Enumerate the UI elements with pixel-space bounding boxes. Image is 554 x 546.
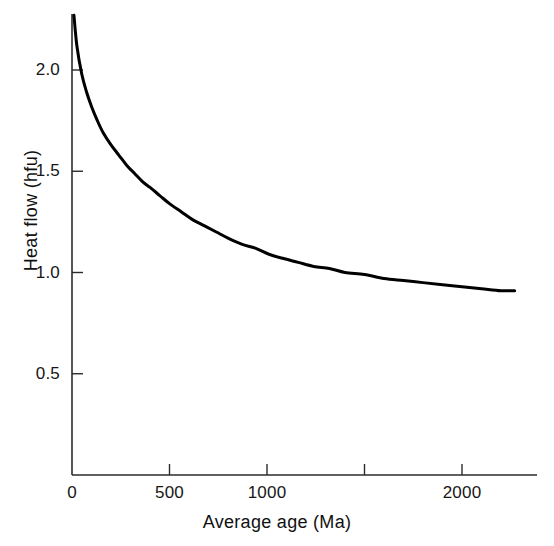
x-tick-marks (170, 464, 463, 475)
heat-flow-curve (74, 15, 515, 291)
x-tick-label-1000: 1000 (222, 483, 312, 503)
y-axis-title: Heat flow (hfu) (21, 131, 42, 291)
chart-figure: 0.51.01.52.0 050010002000 Average age (M… (0, 0, 554, 546)
x-tick-label-500: 500 (125, 483, 215, 503)
x-tick-label-2000: 2000 (417, 483, 507, 503)
x-tick-label-0: 0 (27, 483, 117, 503)
x-axis-title: Average age (Ma) (0, 512, 554, 533)
y-tick-label-2.0: 2.0 (8, 60, 60, 80)
y-tick-marks (72, 70, 83, 374)
y-tick-label-0.5: 0.5 (8, 364, 60, 384)
plot-area (0, 0, 554, 546)
